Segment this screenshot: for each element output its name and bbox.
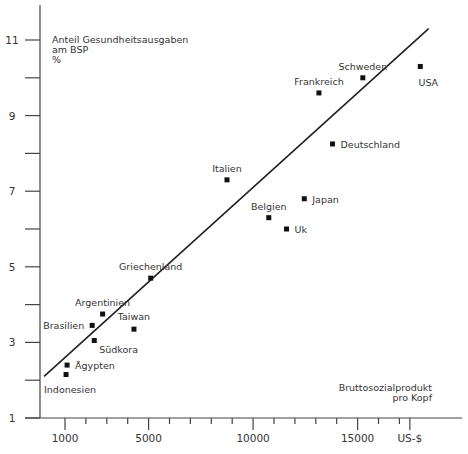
data-point-japan: Japan xyxy=(302,194,339,205)
x-ticks: 100050001000015000US-$ xyxy=(52,418,423,444)
x-tick-label: US-$ xyxy=(397,432,422,444)
x-axis-label-line2: pro Kopf xyxy=(392,392,432,403)
point-label: Brasilien xyxy=(43,320,84,331)
data-point-usa: USA xyxy=(418,64,439,89)
data-point-indonesien: Indonesien xyxy=(44,372,96,395)
point-marker-icon xyxy=(302,196,307,201)
point-marker-icon xyxy=(131,327,136,332)
point-label: Ägypten xyxy=(75,360,115,371)
data-point-griechenland: Griechenland xyxy=(119,261,182,281)
x-tick-label: 1000 xyxy=(52,432,79,444)
point-label: Uk xyxy=(295,224,308,235)
data-point-schweden: Schweden xyxy=(338,61,387,81)
data-point-deutschland: Deutschland xyxy=(330,139,400,150)
point-marker-icon xyxy=(330,141,335,146)
scatter-chart: 1357911 100050001000015000US-$ USASchwed… xyxy=(0,0,468,454)
point-marker-icon xyxy=(266,215,271,220)
point-label: Italien xyxy=(212,163,242,174)
data-point-ägypten: Ägypten xyxy=(65,360,115,371)
data-point-südkora: Südkora xyxy=(92,338,138,355)
point-label: Südkora xyxy=(99,344,138,355)
point-marker-icon xyxy=(100,312,105,317)
y-tick-label: 5 xyxy=(9,261,16,273)
point-label: Japan xyxy=(311,194,339,205)
data-point-uk: Uk xyxy=(284,224,307,235)
data-point-brasilien: Brasilien xyxy=(43,320,94,331)
y-axis-label-line3: % xyxy=(52,54,61,65)
point-label: USA xyxy=(418,77,438,88)
point-label: Griechenland xyxy=(119,261,182,272)
point-label: Belgien xyxy=(251,201,287,212)
y-tick-label: 9 xyxy=(9,110,16,122)
point-label: Taiwan xyxy=(117,311,150,322)
data-point-italien: Italien xyxy=(212,163,242,183)
point-marker-icon xyxy=(418,64,423,69)
y-tick-label: 3 xyxy=(9,336,16,348)
point-label: Deutschland xyxy=(341,139,401,150)
data-point-belgien: Belgien xyxy=(251,201,287,221)
y-tick-label: 7 xyxy=(9,185,16,197)
point-marker-icon xyxy=(90,323,95,328)
point-marker-icon xyxy=(360,75,365,80)
point-label: Frankreich xyxy=(294,76,343,87)
data-points: USASchwedenFrankreichDeutschlandItalienJ… xyxy=(43,61,438,395)
point-label: Argentinien xyxy=(75,297,130,308)
x-tick-label: 15000 xyxy=(341,432,374,444)
point-marker-icon xyxy=(224,177,229,182)
x-tick-label: 10000 xyxy=(236,432,269,444)
point-marker-icon xyxy=(316,90,321,95)
point-label: Indonesien xyxy=(44,384,96,395)
point-marker-icon xyxy=(65,363,70,368)
axes xyxy=(25,5,462,418)
data-point-frankreich: Frankreich xyxy=(294,76,343,96)
y-tick-label: 1 xyxy=(9,412,16,424)
point-marker-icon xyxy=(64,372,69,377)
regression-line xyxy=(44,29,429,377)
y-ticks: 1357911 xyxy=(5,34,40,424)
point-marker-icon xyxy=(148,276,153,281)
x-tick-label: 5000 xyxy=(135,432,162,444)
y-tick-label: 11 xyxy=(5,34,18,46)
data-point-taiwan: Taiwan xyxy=(117,311,150,332)
point-marker-icon xyxy=(92,338,97,343)
point-marker-icon xyxy=(284,227,289,232)
point-label: Schweden xyxy=(338,61,387,72)
